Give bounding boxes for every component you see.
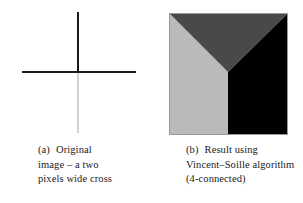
- caption-b-text-1: Result using: [205, 144, 258, 155]
- caption-b-line-2: Vincent–Soille algorithm: [186, 158, 303, 173]
- figure-panel-b: [152, 0, 303, 140]
- cross-vertical-upper-segment: [77, 12, 79, 72]
- caption-a-line-2: image – a two: [38, 158, 150, 173]
- cross-diagram: [0, 0, 152, 140]
- cross-horizontal-segment: [22, 71, 136, 73]
- caption-b-line-3: (4-connected): [186, 172, 303, 187]
- caption-a-text-1: Original: [56, 144, 92, 155]
- caption-a-tag: (a): [38, 144, 50, 155]
- cross-vertical-lower-segment: [77, 72, 79, 133]
- caption-b-tag: (b): [186, 144, 199, 155]
- watershed-result-diagram: [169, 13, 288, 135]
- caption-panel-a: (a)Original image – a two pixels wide cr…: [38, 143, 150, 187]
- caption-b-line-1: (b)Result using: [186, 143, 303, 158]
- caption-a-line-3: pixels wide cross: [38, 172, 150, 187]
- figure-panel-a: [0, 0, 152, 140]
- caption-panel-b: (b)Result using Vincent–Soille algorithm…: [186, 143, 303, 187]
- caption-a-line-1: (a)Original: [38, 143, 150, 158]
